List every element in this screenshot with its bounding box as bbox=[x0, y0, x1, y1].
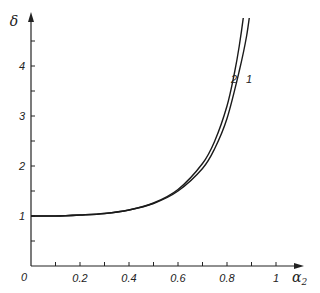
y-tick-label: 1 bbox=[19, 210, 25, 222]
y-tick-label: 4 bbox=[19, 60, 25, 72]
y-tick-label: 3 bbox=[19, 110, 26, 122]
y-tick-label: 2 bbox=[18, 160, 25, 172]
x-tick-label: 0.4 bbox=[121, 272, 136, 284]
x-tick-label: 1 bbox=[273, 272, 279, 284]
curves bbox=[31, 0, 256, 216]
y-axis-label: δ bbox=[10, 13, 18, 29]
axes bbox=[28, 12, 304, 269]
curve-1 bbox=[31, 0, 256, 216]
curve-label-2: 2 bbox=[230, 73, 237, 85]
origin-label: 0 bbox=[21, 271, 28, 283]
x-axis-label-subscript: 2 bbox=[300, 277, 307, 287]
x-tick-label: 0.6 bbox=[170, 272, 186, 284]
curve-label-1: 1 bbox=[246, 73, 252, 85]
curve-2 bbox=[31, 0, 249, 216]
x-ticks: 0.20.40.60.81 bbox=[56, 262, 280, 284]
chart: 0.20.40.60.81 1234 0 δ α2 2 1 bbox=[0, 0, 320, 293]
x-tick-label: 0.8 bbox=[219, 272, 235, 284]
x-tick-label: 0.2 bbox=[72, 272, 87, 284]
y-ticks: 1234 bbox=[18, 41, 35, 241]
x-axis-label: α2 bbox=[292, 269, 307, 287]
y-axis-arrow-icon bbox=[28, 12, 34, 22]
